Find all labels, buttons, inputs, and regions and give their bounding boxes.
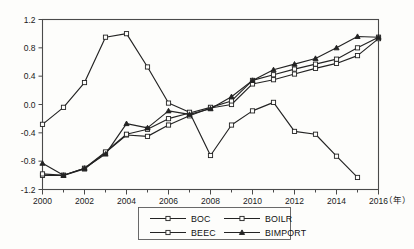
y-axis-tick-label: 0.0: [24, 100, 36, 110]
legend-label-beec: BEEC: [191, 228, 216, 238]
y-axis-tick-label: 1.2: [24, 15, 36, 25]
data-point-marker: [355, 46, 359, 50]
data-point-marker: [145, 65, 149, 69]
data-point-marker: [355, 175, 359, 179]
y-axis-tick-label: -0.8: [21, 156, 36, 166]
data-point-marker: [292, 129, 296, 133]
x-axis-unit-label: （年）: [384, 195, 411, 205]
data-point-marker: [40, 122, 44, 126]
legend-label-boc: BOC: [191, 214, 211, 224]
data-point-marker: [292, 67, 296, 71]
x-axis-tick-label: 2002: [75, 196, 94, 206]
data-point-marker: [166, 123, 170, 127]
line-chart-figure: 1.20.80.40.0-0.4-0.8-1.2 200020022004200…: [0, 0, 414, 249]
x-axis-tick-label: 2006: [159, 196, 178, 206]
data-point-marker: [334, 61, 338, 65]
data-point-marker: [103, 35, 107, 39]
data-point-marker: [334, 154, 338, 158]
data-point-marker: [313, 62, 317, 66]
chart-legend: BOCBOILRBEECBIMPORT: [139, 208, 307, 240]
y-axis: 1.20.80.40.0-0.4-0.8-1.2: [21, 15, 43, 195]
data-series-group: [40, 32, 381, 180]
x-axis-tick-label: 2004: [117, 196, 136, 206]
data-point-marker: [124, 32, 128, 36]
data-point-marker: [166, 230, 170, 234]
data-point-marker: [313, 132, 317, 136]
data-point-marker: [166, 108, 171, 113]
x-axis: 200020022004200620082010201220142016: [33, 190, 388, 207]
data-point-marker: [271, 73, 275, 77]
data-point-marker: [334, 45, 339, 50]
data-point-marker: [124, 121, 129, 126]
legend-label-boilr: BOILR: [265, 214, 292, 224]
data-point-marker: [355, 54, 359, 58]
y-axis-tick-label: 0.8: [24, 43, 36, 53]
y-axis-tick-label: -1.2: [21, 185, 36, 195]
data-point-marker: [82, 80, 86, 84]
x-axis-tick-label: 2000: [33, 196, 52, 206]
data-point-marker: [313, 66, 317, 70]
x-axis-tick-label: 2012: [285, 196, 304, 206]
data-point-marker: [40, 172, 44, 176]
data-point-marker: [61, 105, 65, 109]
data-point-marker: [166, 216, 170, 220]
data-point-marker: [229, 99, 233, 103]
y-axis-tick-label: 0.4: [24, 71, 36, 81]
data-point-marker: [334, 57, 338, 61]
y-axis-tick-label: -0.4: [21, 128, 36, 138]
x-axis-tick-label: 2008: [201, 196, 220, 206]
data-point-marker: [124, 132, 128, 136]
series-line: [43, 34, 358, 178]
data-point-marker: [166, 101, 170, 105]
data-point-marker: [271, 100, 275, 104]
data-point-marker: [250, 109, 254, 113]
data-point-marker: [271, 78, 275, 82]
data-point-marker: [166, 117, 170, 121]
series-beec: [40, 32, 359, 180]
legend-label-bimport: BIMPORT: [265, 228, 307, 238]
data-point-marker: [145, 134, 149, 138]
data-point-marker: [292, 72, 296, 76]
x-axis-tick-label: 2010: [243, 196, 262, 206]
x-axis-tick-label: 2014: [327, 196, 346, 206]
data-point-marker: [240, 216, 244, 220]
data-point-marker: [229, 123, 233, 127]
plot-frame: [43, 20, 379, 190]
data-point-marker: [208, 153, 212, 157]
